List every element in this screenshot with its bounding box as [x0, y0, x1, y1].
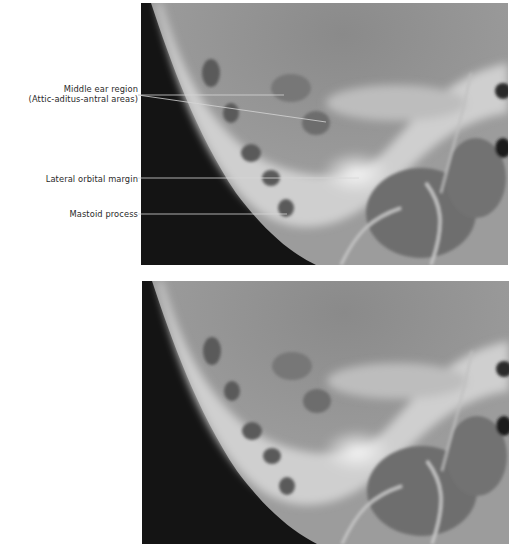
- radiograph-image: [142, 281, 509, 544]
- label-lateral-orbital-text: Lateral orbital margin: [46, 174, 138, 184]
- label-middle-ear-line2: (Attic-aditus-antral areas): [29, 94, 138, 104]
- label-mastoid-process: Mastoid process: [70, 209, 139, 219]
- label-middle-ear-line1: Middle ear region: [29, 84, 138, 94]
- radiograph-top-labeled: [141, 3, 508, 265]
- label-lateral-orbital-margin: Lateral orbital margin: [46, 174, 138, 184]
- label-mastoid-text: Mastoid process: [70, 209, 139, 219]
- radiograph-image: [141, 3, 508, 265]
- label-middle-ear-region: Middle ear region (Attic-aditus-antral a…: [29, 84, 138, 104]
- radiograph-bottom-unlabeled: [142, 281, 509, 544]
